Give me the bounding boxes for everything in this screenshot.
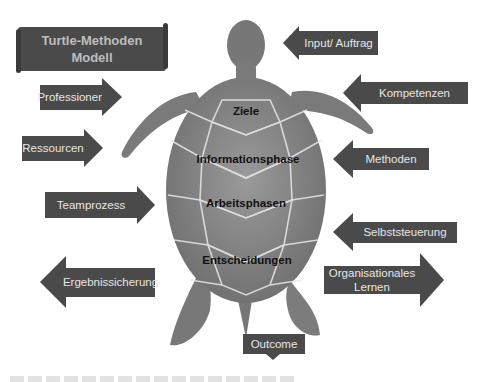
arrow-label-selbststeuerung: Selbststeuerung — [353, 222, 457, 243]
title-banner: Turtle-Methoden Modell — [18, 27, 166, 71]
title-line-2: Modell — [71, 49, 112, 66]
arrow-head-left-icon — [283, 26, 299, 60]
arrow-input-auftrag: Input/ Auftrag — [283, 26, 378, 60]
arrow-organisationales-lernen: Organisationales Lernen — [324, 253, 444, 307]
arrow-head-down-icon — [266, 354, 280, 360]
right-rear-flipper — [286, 280, 320, 336]
arrow-head-left-icon — [333, 213, 353, 251]
arrow-label-line-2: Lernen — [354, 280, 390, 294]
arrow-label-kompetenzen: Kompetenzen — [361, 82, 468, 104]
arrow-professionen: Professionen — [40, 78, 122, 116]
arrow-ressourcen: Ressourcen — [22, 129, 103, 167]
arrow-head-right-icon — [84, 129, 103, 167]
arrow-head-right-icon — [137, 186, 155, 224]
arrow-kompetenzen: Kompetenzen — [343, 74, 468, 112]
arrow-label-methoden: Methoden — [353, 148, 429, 170]
shell-label-arbeitsphasen: Arbeitsphasen — [206, 197, 286, 209]
arrow-head-right-icon — [420, 253, 444, 307]
arrow-label-input-auftrag: Input/ Auftrag — [299, 31, 378, 55]
title-line-1: Turtle-Methoden — [42, 32, 143, 49]
arrow-methoden: Methoden — [333, 140, 429, 178]
shell-label-informationsphase: Informationsphase — [197, 153, 300, 165]
arrow-teamprozess: Teamprozess — [45, 186, 155, 224]
arrow-label-line-1: Organisationales — [329, 266, 415, 280]
figure-caption-cropped — [10, 376, 295, 382]
arrow-label-teamprozess: Teamprozess — [45, 192, 137, 218]
shell-label-ziele: Ziele — [233, 105, 259, 117]
arrow-label-ergebnissicherung: Ergebnissicherung — [66, 268, 155, 297]
arrow-label-organisationales-lernen: Organisationales Lernen — [324, 266, 420, 294]
arrow-label-professionen: Professionen — [40, 85, 102, 110]
turtle-method-diagram: Turtle-Methoden Modell Ziele Information… — [0, 0, 484, 382]
arrow-selbststeuerung: Selbststeuerung — [333, 213, 457, 251]
arrow-outcome: Outcome — [243, 334, 305, 354]
shell-label-entscheidungen: Entscheidungen — [202, 254, 291, 266]
arrow-head-right-icon — [102, 78, 122, 116]
arrow-head-left-icon — [333, 140, 353, 178]
arrow-head-left-icon — [343, 74, 361, 112]
arrow-ergebnissicherung: Ergebnissicherung — [40, 256, 155, 308]
arrow-label-ressourcen: Ressourcen — [22, 136, 84, 161]
